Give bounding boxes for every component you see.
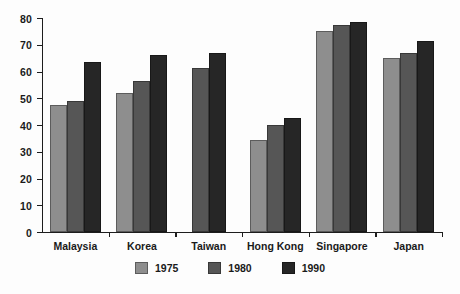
y-tick-label: 60 [20, 66, 32, 78]
x-tick [375, 232, 376, 237]
legend-swatch-1990 [282, 262, 295, 274]
x-tick [309, 232, 310, 237]
x-label-korea: Korea [127, 240, 157, 252]
bar-group-japan [375, 18, 442, 232]
x-label-japan: Japan [393, 240, 423, 252]
bar-japan-1980 [400, 53, 417, 232]
legend-item-1990[interactable]: 1990 [282, 262, 325, 274]
y-tick-label: 50 [20, 93, 32, 105]
x-tick [242, 232, 243, 237]
bar-korea-1975 [116, 93, 133, 232]
bar-taiwan-1980 [192, 68, 209, 233]
bar-singapore-1990 [350, 22, 367, 232]
legend-label-1975: 1975 [155, 262, 178, 274]
y-tick-label: 80 [20, 13, 32, 25]
x-tick [442, 232, 443, 237]
bar-hong-kong-1980 [267, 125, 284, 232]
bar-malaysia-1990 [84, 62, 101, 232]
bar-group-taiwan [175, 18, 242, 232]
x-label-hong-kong: Hong Kong [247, 240, 304, 252]
x-label-malaysia: Malaysia [53, 240, 97, 252]
bar-singapore-1975 [316, 31, 333, 232]
x-tick [109, 232, 110, 237]
x-label-singapore: Singapore [316, 240, 367, 252]
y-tick-label: 10 [20, 200, 32, 212]
y-tick-label: 40 [20, 120, 32, 132]
bar-malaysia-1975 [50, 105, 67, 232]
y-tick-label: 20 [20, 173, 32, 185]
bar-japan-1990 [417, 41, 434, 232]
bar-group-singapore [309, 18, 376, 232]
bar-group-korea [109, 18, 176, 232]
y-tick-label: 0 [26, 227, 32, 239]
x-tick [175, 232, 176, 237]
legend-label-1980: 1980 [228, 262, 251, 274]
chart-legend: 197519801990 [0, 262, 460, 274]
legend-item-1975[interactable]: 1975 [135, 262, 178, 274]
bar-singapore-1980 [333, 25, 350, 232]
legend-label-1990: 1990 [302, 262, 325, 274]
bar-hong-kong-1975 [250, 140, 267, 232]
bar-japan-1975 [383, 58, 400, 232]
x-label-taiwan: Taiwan [191, 240, 226, 252]
y-tick-0: 0 [37, 232, 42, 233]
legend-swatch-1975 [135, 262, 148, 274]
plot-area: 01020304050607080 MalaysiaKoreaTaiwanHon… [42, 18, 442, 232]
bar-malaysia-1980 [67, 101, 84, 232]
bar-korea-1980 [133, 81, 150, 232]
bar-group-malaysia [42, 18, 109, 232]
bar-chart: 01020304050607080 MalaysiaKoreaTaiwanHon… [0, 0, 460, 294]
bar-taiwan-1990 [209, 53, 226, 232]
y-tick-label: 30 [20, 146, 32, 158]
bar-group-hong-kong [242, 18, 309, 232]
legend-item-1980[interactable]: 1980 [208, 262, 251, 274]
y-tick-label: 70 [20, 39, 32, 51]
bar-hong-kong-1990 [284, 118, 301, 232]
bar-korea-1990 [150, 55, 167, 232]
legend-swatch-1980 [208, 262, 221, 274]
